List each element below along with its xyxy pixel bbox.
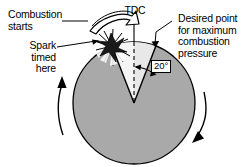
spark-leader-line (57, 41, 96, 47)
engine-timing-diagram: Combustion starts Spark timed here TDC D… (0, 0, 248, 167)
label-spark-timed-here: Spark timed here (0, 40, 56, 75)
label-angle-20-degrees: 20° (151, 60, 171, 73)
rotation-arrow-right-head (192, 131, 204, 143)
rotation-arrow-right (198, 92, 206, 135)
label-desired-point: Desired point for maximum combustion pre… (178, 13, 248, 59)
label-tdc: TDC (116, 5, 154, 17)
desired-leader-line (156, 21, 172, 32)
label-combustion-starts: Combustion starts (8, 9, 62, 32)
rotation-arrow-left-head (57, 76, 66, 88)
rotation-arrow-left (58, 84, 63, 135)
